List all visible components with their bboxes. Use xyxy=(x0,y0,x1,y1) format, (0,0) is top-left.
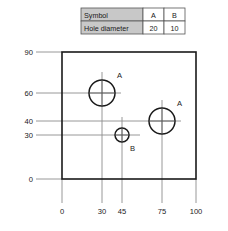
table-value-symbol-a: A xyxy=(151,11,156,20)
table-label-symbol: Symbol xyxy=(84,11,108,20)
hole-a-2: A xyxy=(149,99,183,134)
hole-label-a-1: A xyxy=(117,71,123,80)
plate-outline xyxy=(62,52,196,179)
drawing-canvas: Symbol A B Hole diameter 20 10 xyxy=(0,0,228,231)
x-tick-label-45: 45 xyxy=(118,207,126,216)
table-label-hole-diameter: Hole diameter xyxy=(84,24,129,33)
y-tick-label-0: 0 xyxy=(29,175,33,184)
table-value-symbol-b: B xyxy=(172,11,177,20)
y-tick-label-40: 40 xyxy=(25,117,33,126)
hole-a-1: A xyxy=(89,71,123,106)
engineering-drawing: Symbol A B Hole diameter 20 10 xyxy=(0,0,228,231)
table-value-diameter-b: 10 xyxy=(171,24,179,33)
y-axis-labels: 90 60 40 30 0 xyxy=(25,48,33,184)
hole-label-a-2: A xyxy=(177,99,183,108)
x-tick-label-100: 100 xyxy=(190,207,203,216)
x-tick-label-0: 0 xyxy=(60,207,64,216)
hole-specification-table: Symbol A B Hole diameter 20 10 xyxy=(81,8,185,34)
y-tick-label-60: 60 xyxy=(25,89,33,98)
hole-label-b-1: B xyxy=(130,144,135,153)
construction-lines xyxy=(36,52,196,203)
table-value-diameter-a: 20 xyxy=(150,24,158,33)
y-tick-label-30: 30 xyxy=(25,131,33,140)
hole-b-1: B xyxy=(115,128,135,153)
x-tick-label-30: 30 xyxy=(98,207,106,216)
x-tick-label-75: 75 xyxy=(158,207,166,216)
y-tick-label-90: 90 xyxy=(25,48,33,57)
x-axis-labels: 0 30 45 75 100 xyxy=(60,207,202,216)
